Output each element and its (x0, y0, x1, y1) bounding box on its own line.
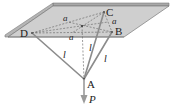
centroid-point (81, 25, 83, 27)
label-rod-l-left: l (63, 49, 66, 60)
label-A: A (87, 78, 95, 90)
hinge-D (31, 32, 33, 34)
rod-AB (84, 32, 112, 79)
label-side-a-top: a (63, 13, 68, 23)
rod-AD (32, 33, 84, 79)
label-side-a-right: a (112, 16, 117, 26)
truss-diagram: D B C A a a a l l l P (0, 0, 174, 112)
arrow-down-icon (81, 95, 88, 104)
ceiling-plate (5, 3, 169, 37)
hinge-C (103, 11, 105, 13)
label-load-P: P (88, 93, 96, 105)
label-B: B (115, 25, 122, 37)
hinge-B (111, 31, 113, 33)
diagram-canvas: D B C A a a a l l l P (0, 0, 174, 112)
label-rod-l-middle: l (89, 42, 92, 53)
label-side-a-bottom: a (69, 32, 74, 42)
label-rod-l-right: l (104, 53, 107, 64)
label-D: D (20, 27, 28, 39)
